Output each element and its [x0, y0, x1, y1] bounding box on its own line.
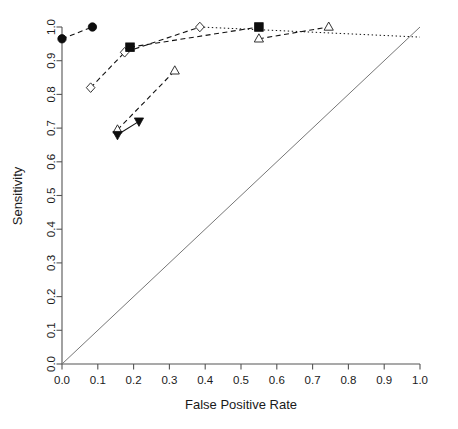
- y-axis-title: Sensitivity: [10, 166, 25, 225]
- x-tick-label: 0.5: [233, 374, 249, 386]
- x-tick-label: 0.7: [305, 374, 321, 386]
- chance-diagonal-line: [62, 27, 420, 364]
- y-tick-label: 0.4: [45, 221, 57, 238]
- x-tick-label: 1.0: [412, 374, 428, 386]
- y-axis-ticks: [57, 27, 63, 364]
- roc-plot-canvas: 0.00.10.20.30.40.50.60.70.80.91.0 0.00.1…: [0, 0, 458, 429]
- data-point-filled-square: [126, 43, 135, 52]
- y-tick-label: 0.5: [45, 188, 57, 204]
- data-point-open-diamond: [196, 22, 205, 32]
- x-axis-title: False Positive Rate: [185, 397, 297, 412]
- x-axis-ticks: [62, 364, 420, 370]
- data-point-open-triangle: [170, 66, 179, 74]
- data-point-open-triangle: [324, 22, 333, 30]
- x-tick-label: 0.1: [90, 374, 106, 386]
- x-tick-label: 0.3: [161, 374, 177, 386]
- y-tick-label: 0.6: [45, 154, 57, 170]
- y-tick-label: 0.9: [45, 53, 57, 69]
- filled-circle-series-line: [62, 27, 92, 39]
- y-tick-label: 1.0: [45, 19, 57, 35]
- x-tick-label: 0.8: [340, 374, 356, 386]
- y-tick-label: 0.0: [45, 356, 57, 372]
- data-point-filled-circle: [88, 23, 96, 31]
- chance-diagonal: [62, 27, 420, 364]
- y-tick-label: 0.8: [45, 86, 57, 102]
- data-point-filled-square: [255, 23, 264, 32]
- series-lines-group: [62, 27, 420, 135]
- y-axis-tick-labels: 0.00.10.20.30.40.50.60.70.80.91.0: [45, 19, 57, 372]
- open-diamond-series-line: [91, 27, 200, 88]
- data-point-filled-triangle-down: [113, 131, 122, 139]
- x-tick-label: 0.6: [269, 374, 285, 386]
- y-tick-label: 0.7: [45, 120, 57, 136]
- data-point-filled-triangle-down: [134, 118, 143, 126]
- x-tick-label: 0.4: [197, 374, 214, 386]
- data-point-filled-circle: [58, 35, 66, 43]
- open-triangle-upper-series-line: [259, 27, 329, 39]
- x-tick-label: 0.2: [126, 374, 142, 386]
- roc-chart-figure: 0.00.10.20.30.40.50.60.70.80.91.0 0.00.1…: [0, 0, 458, 429]
- y-tick-label: 0.2: [45, 289, 57, 305]
- open-triangle-lower-series-line: [117, 71, 174, 130]
- x-tick-label: 0.0: [54, 374, 70, 386]
- x-tick-label: 0.9: [376, 374, 392, 386]
- filled-square-series-line: [130, 27, 259, 47]
- x-axis-tick-labels: 0.00.10.20.30.40.50.60.70.80.91.0: [54, 374, 428, 386]
- y-tick-label: 0.1: [45, 322, 57, 338]
- y-tick-label: 0.3: [45, 255, 57, 271]
- open-diamond-dotted-tail-line: [200, 27, 420, 37]
- series-markers-group: [58, 22, 334, 140]
